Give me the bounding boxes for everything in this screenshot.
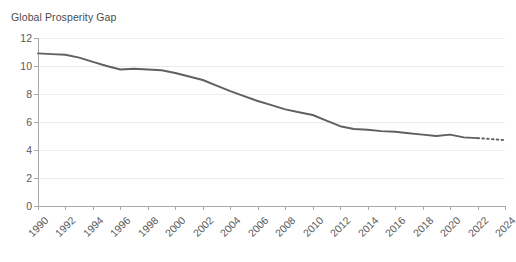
plot-area: 024681012 199019921994199619982000200220… (38, 38, 505, 206)
x-axis-tick-label: 2012 (328, 214, 353, 239)
x-axis-tick-label: 2024 (492, 214, 516, 239)
x-axis-tick (93, 206, 94, 210)
chart-canvas: Global Prosperity Gap 024681012 19901992… (0, 0, 516, 262)
x-axis-tick (450, 206, 451, 210)
x-axis-tick (175, 206, 176, 210)
x-axis-tick (38, 206, 39, 210)
series-layer (38, 38, 505, 206)
x-axis-tick-label: 2016 (383, 214, 408, 239)
x-axis-tick-label: 2004 (218, 214, 243, 239)
x-axis-tick (313, 206, 314, 210)
y-axis-tick-label: 6 (26, 116, 32, 128)
y-axis-tick-label: 8 (26, 88, 32, 100)
x-axis-tick-label: 1998 (135, 214, 160, 239)
x-axis-line (38, 206, 505, 207)
x-axis-tick-label: 1992 (53, 214, 78, 239)
x-axis-tick (65, 206, 66, 210)
x-axis-tick (258, 206, 259, 210)
chart-title: Global Prosperity Gap (11, 11, 116, 23)
x-axis-tick (395, 206, 396, 210)
x-axis-tick (423, 206, 424, 210)
x-axis-tick-label: 2020 (438, 214, 463, 239)
x-axis-tick (120, 206, 121, 210)
line-series-global-prosperity-gap (38, 53, 478, 138)
y-axis-tick-label: 10 (20, 60, 32, 72)
x-axis-tick (505, 206, 506, 210)
x-axis-tick-label: 1994 (80, 214, 105, 239)
x-axis-tick-label: 2008 (273, 214, 298, 239)
x-axis-tick (368, 206, 369, 210)
x-axis-tick-label: 2006 (245, 214, 270, 239)
x-axis-tick (340, 206, 341, 210)
x-axis-tick-label: 1990 (25, 214, 50, 239)
y-axis-tick-label: 12 (20, 32, 32, 44)
x-axis-tick-label: 2010 (300, 214, 325, 239)
x-axis-tick (478, 206, 479, 210)
x-axis-tick-label: 1996 (108, 214, 133, 239)
y-axis-tick-label: 2 (26, 172, 32, 184)
y-axis-tick-label: 4 (26, 144, 32, 156)
x-axis-tick-label: 2018 (410, 214, 435, 239)
x-axis-tick-label: 2002 (190, 214, 215, 239)
x-axis-tick-label: 2000 (163, 214, 188, 239)
y-axis-tick-label: 0 (26, 200, 32, 212)
x-axis-tick (203, 206, 204, 210)
x-axis-tick (148, 206, 149, 210)
line-series-global-prosperity-gap-projection (478, 138, 505, 140)
x-axis-tick (230, 206, 231, 210)
x-axis-tick-label: 2014 (355, 214, 380, 239)
x-axis-tick (285, 206, 286, 210)
x-axis-tick-label: 2022 (465, 214, 490, 239)
